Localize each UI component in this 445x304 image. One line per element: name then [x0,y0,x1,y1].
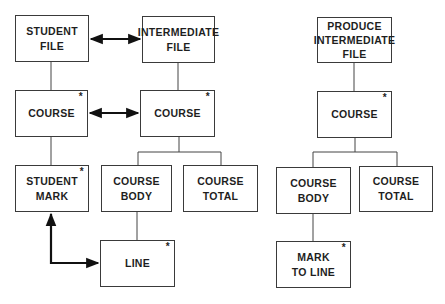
box-label: PRODUCE INTERMEDIATE FILE [314,19,396,61]
box-label: STUDENT FILE [26,24,78,54]
box-label: COURSE [28,106,75,121]
structure-diagram: STUDENT FILE INTERMEDIATE FILE * COURSE … [0,0,445,304]
box-label: INTERMEDIATE FILE [138,25,220,55]
correspondence-arrow-mark-line [51,214,98,263]
iteration-star-icon: * [80,167,84,177]
box-label: COURSE TOTAL [197,174,244,204]
course-total-box-right: COURSE TOTAL [359,166,433,212]
iteration-star-icon: * [206,92,210,102]
course-box-left: * COURSE [15,90,88,137]
course-box-mid: * COURSE [140,90,215,137]
course-body-box-right: COURSE BODY [276,167,351,214]
box-label: COURSE BODY [113,174,160,204]
iteration-star-icon: * [383,93,387,103]
course-body-box-mid: COURSE BODY [101,165,172,212]
produce-intermediate-file-box: PRODUCE INTERMEDIATE FILE [317,17,392,63]
box-label: COURSE [331,107,378,122]
line-box: * LINE [100,240,175,287]
box-label: COURSE TOTAL [373,174,420,204]
mark-to-line-box: * MARK TO LINE [276,241,351,288]
student-mark-box: * STUDENT MARK [15,165,89,212]
box-label: STUDENT MARK [26,174,78,204]
iteration-star-icon: * [166,242,170,252]
student-file-box: STUDENT FILE [15,15,89,62]
course-total-box-mid: COURSE TOTAL [183,165,258,212]
intermediate-file-box: INTERMEDIATE FILE [142,16,215,63]
box-label: COURSE BODY [290,176,337,206]
iteration-star-icon: * [342,243,346,253]
box-label: LINE [125,256,150,271]
box-label: MARK TO LINE [292,250,335,280]
course-box-right: * COURSE [317,91,392,138]
iteration-star-icon: * [79,92,83,102]
box-label: COURSE [154,106,201,121]
